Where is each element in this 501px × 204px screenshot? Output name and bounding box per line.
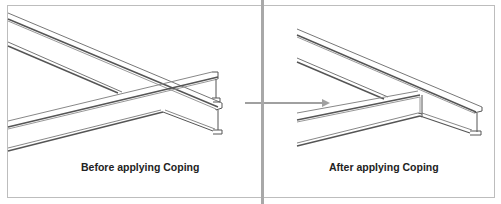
- beam-drawings: [0, 0, 501, 204]
- after-coping-drawing: [297, 29, 482, 146]
- panel-divider: [261, 0, 264, 204]
- arrow-right-icon: [245, 99, 330, 107]
- before-caption: Before applying Coping: [81, 161, 199, 173]
- after-caption: After applying Coping: [329, 161, 439, 173]
- before-coping-drawing: [8, 13, 222, 151]
